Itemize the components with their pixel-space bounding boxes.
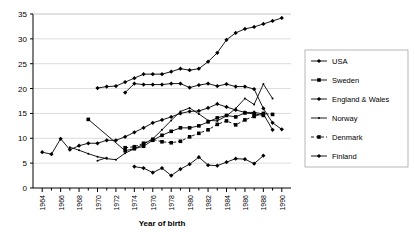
legend-label[interactable]: USA (332, 57, 347, 66)
data-point (105, 138, 109, 142)
data-point (169, 130, 173, 134)
x-tick-label: 1966 (58, 195, 65, 211)
data-point (123, 80, 127, 84)
data-point (97, 160, 99, 162)
legend-label[interactable]: Norway (332, 114, 358, 123)
y-tick-label: 35 (18, 10, 27, 19)
legend-label[interactable]: Sweden (332, 76, 359, 85)
data-point (317, 135, 321, 139)
data-point (78, 149, 80, 151)
data-point (87, 153, 89, 155)
data-point (160, 72, 164, 76)
x-tick-label: 1982 (205, 195, 212, 211)
data-point (169, 81, 173, 85)
data-point (132, 130, 136, 134)
data-point (105, 84, 109, 88)
data-point (262, 112, 266, 116)
x-axis-title: Year of birth (139, 219, 186, 228)
data-point (86, 118, 90, 122)
series-denmark (123, 112, 274, 150)
data-point (188, 135, 192, 139)
data-point (124, 152, 126, 154)
data-point (188, 85, 192, 89)
x-tick-label: 1986 (242, 195, 249, 211)
data-point (160, 82, 164, 86)
data-point (272, 98, 274, 100)
data-point (141, 72, 145, 76)
data-point (253, 103, 255, 105)
data-point (224, 82, 228, 86)
x-tick-label: 1984 (224, 195, 231, 211)
data-point (95, 86, 99, 90)
legend-label[interactable]: England & Wales (332, 95, 390, 104)
data-point (215, 116, 219, 120)
legend-label[interactable]: Finland (332, 152, 357, 161)
y-tick-label: 15 (18, 109, 27, 118)
data-point (271, 113, 275, 117)
data-point (270, 128, 274, 132)
x-tick-label: 1964 (39, 195, 46, 211)
data-point (261, 22, 265, 26)
data-point (198, 113, 200, 115)
data-point (207, 119, 209, 121)
data-point (225, 119, 229, 123)
data-point (178, 81, 182, 85)
data-point (243, 27, 247, 31)
y-tick-label: 30 (18, 35, 27, 44)
data-point (270, 19, 274, 23)
data-point (215, 102, 219, 106)
y-tick-label: 5 (23, 159, 28, 168)
series-sweden (86, 111, 265, 152)
data-point (132, 165, 136, 169)
x-axis: 1964196619681970197219741976197819801982… (33, 188, 291, 228)
data-point (161, 129, 163, 131)
legend-label[interactable]: Denmark (332, 133, 363, 142)
data-point (197, 109, 201, 113)
legend: USASwedenEngland & WalesNorwayDenmarkFin… (305, 50, 408, 167)
x-tick-label: 1974 (131, 195, 138, 211)
data-point (215, 123, 219, 127)
data-point (49, 152, 53, 156)
data-point (151, 170, 155, 174)
y-tick-label: 20 (18, 85, 27, 94)
data-point (197, 132, 201, 136)
data-point (206, 128, 210, 132)
x-tick-label: 1970 (95, 195, 102, 211)
data-point (252, 115, 256, 119)
series-finland-low (132, 154, 265, 178)
data-point (197, 124, 201, 128)
data-point (86, 141, 90, 145)
data-point (179, 139, 183, 143)
data-point (206, 106, 210, 110)
data-point (40, 150, 44, 154)
data-point (151, 137, 155, 141)
data-point (160, 140, 164, 144)
data-point (215, 84, 219, 88)
data-point (197, 83, 201, 87)
data-point (243, 84, 247, 88)
data-point (170, 119, 172, 121)
data-point (235, 107, 237, 109)
data-point (262, 83, 264, 85)
data-point (234, 115, 238, 119)
data-point (141, 166, 145, 170)
series-norway (69, 83, 274, 161)
data-point (243, 157, 247, 161)
data-point (69, 146, 71, 148)
y-tick-label: 25 (18, 60, 27, 69)
x-tick-label: 1980 (187, 195, 194, 211)
data-point (188, 109, 192, 113)
data-point (318, 117, 320, 119)
data-point (252, 87, 256, 91)
x-tick-label: 1990 (279, 195, 286, 211)
data-point (317, 78, 321, 82)
data-point (160, 134, 164, 138)
data-point (244, 98, 246, 100)
data-point (151, 72, 155, 76)
data-point (179, 126, 183, 130)
data-point (216, 120, 218, 122)
line-chart: 0510152025303519641966196819701972197419… (0, 0, 415, 232)
data-point (132, 76, 136, 80)
series-line (42, 104, 272, 154)
data-point (261, 106, 265, 110)
